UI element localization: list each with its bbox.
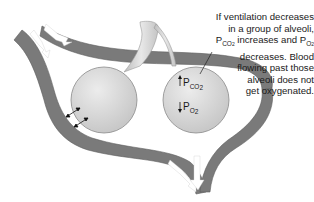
caption-line-3: PCO2 increases and PO2 bbox=[206, 34, 314, 51]
caption-line-2: in a group of alveoli, bbox=[206, 23, 314, 35]
alveolus-normal bbox=[71, 67, 137, 133]
hypoventilation-caption: If ventilation decreases in a group of a… bbox=[206, 11, 314, 97]
airway-left bbox=[124, 21, 158, 72]
caption-line-7: get oxygenated. bbox=[206, 85, 314, 97]
caption-line-5: flowing past those bbox=[206, 62, 314, 74]
caption-line-4: decreases. Blood bbox=[206, 51, 314, 63]
caption-line-1: If ventilation decreases bbox=[206, 11, 314, 23]
caption-line-6: alveoli does not bbox=[206, 74, 314, 86]
